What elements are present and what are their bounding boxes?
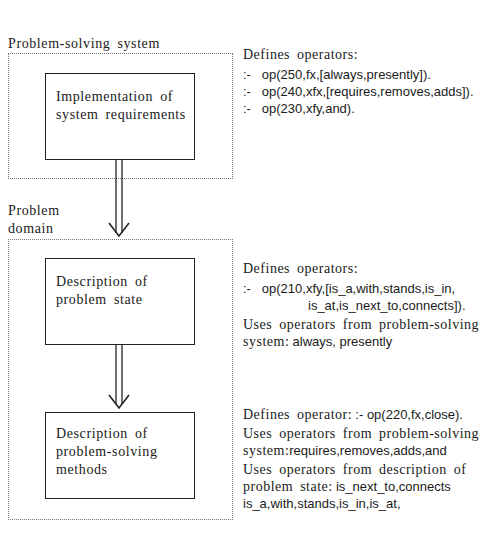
problem-state-box-text: Description of problem state — [56, 273, 148, 309]
uses-operators-line2: system: always, presently — [243, 333, 479, 350]
problem-domain-label-line1: Problem — [8, 202, 60, 220]
uses-operator-list: is_next_to,connects — [336, 479, 451, 494]
uses-source-label: system: — [243, 443, 289, 458]
uses-operators-system-line1: Uses operators from problem-solving — [243, 425, 479, 442]
uses-operators-state-line2: problem state: is_next_to,connects — [243, 478, 479, 495]
problem-solving-system-label: Problem-solving system — [8, 35, 160, 53]
uses-operators-state-line3: is_a,with,stands,is_in,is_at, — [243, 495, 479, 512]
operator-definition-240: :- op(240,xfx,[requires,removes,adds]). — [243, 83, 474, 100]
problem-state-box-line2: problem state — [56, 291, 148, 309]
problem-state-box: Description of problem state — [45, 258, 195, 345]
implementation-box: Implementation of system requirements — [45, 73, 195, 160]
problem-state-note: Defines operators: :- op(210,xfy,[is_a,w… — [243, 260, 479, 350]
implementation-box-line1: Implementation of — [56, 88, 186, 106]
double-line-arrow-down-icon — [106, 159, 132, 239]
directive-prefix: :- — [243, 84, 251, 99]
operator-definition-230: :- op(230,xfy,and). — [243, 100, 474, 117]
operator-definition-250: :- op(250,fx,[always,presently]). — [243, 66, 474, 83]
methods-box-line1: Description of — [56, 425, 158, 443]
methods-box-line3: methods — [56, 461, 158, 479]
directive-prefix: :- — [243, 67, 251, 82]
directive-prefix: :- — [243, 281, 251, 296]
problem-solving-methods-box-text: Description of problem-solving methods — [56, 425, 158, 479]
double-line-arrow-down-icon — [106, 345, 132, 411]
implementation-box-line2: system requirements — [56, 106, 186, 124]
uses-operators-system-line2: system:requires,removes,adds,and — [243, 442, 479, 459]
defines-operators-heading: Defines operators: — [243, 260, 479, 277]
methods-box-line2: problem-solving — [56, 443, 158, 461]
defines-operators-heading: Defines operators: — [243, 46, 474, 63]
operator-code: op(240,xfx,[requires,removes,adds]). — [262, 84, 474, 99]
uses-operators-state-line1: Uses operators from description of — [243, 461, 479, 478]
uses-operator-list: always, presently — [293, 334, 393, 349]
uses-operators-line1: Uses operators from problem-solving — [243, 316, 479, 333]
problem-solving-system-note: Defines operators: :- op(250,fx,[always,… — [243, 46, 474, 117]
problem-domain-label-line2: domain — [8, 220, 60, 238]
directive-prefix: :- — [243, 101, 251, 116]
uses-operator-list: requires,removes,adds,and — [289, 443, 447, 458]
problem-solving-methods-box: Description of problem-solving methods — [45, 412, 195, 499]
operator-definition-210: :- op(210,xfy,[is_a,with,stands,is_in, — [243, 280, 479, 297]
problem-state-box-line1: Description of — [56, 273, 148, 291]
operator-code: op(230,xfy,and). — [262, 101, 355, 116]
problem-solving-methods-note: Defines operator: :- op(220,fx,close). U… — [243, 406, 479, 512]
problem-domain-label: Problem domain — [8, 202, 60, 238]
uses-source-label: problem state: — [243, 479, 333, 494]
operator-code-line2: is_at,is_next_to,connects]). — [243, 297, 479, 314]
operator-definition-220: :- op(220,fx,close). — [355, 407, 463, 422]
defines-operator-label: Defines operator: — [243, 407, 352, 422]
defines-operator-line: Defines operator: :- op(220,fx,close). — [243, 406, 479, 423]
operator-code-line1: op(210,xfy,[is_a,with,stands,is_in, — [262, 281, 455, 296]
implementation-box-text: Implementation of system requirements — [56, 88, 186, 124]
uses-source-label: system: — [243, 334, 289, 349]
operator-code: op(250,fx,[always,presently]). — [262, 67, 431, 82]
